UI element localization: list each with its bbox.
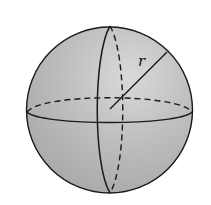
sphere-diagram: r (0, 0, 211, 205)
sphere-outline (27, 27, 193, 193)
radius-label: r (138, 52, 146, 70)
